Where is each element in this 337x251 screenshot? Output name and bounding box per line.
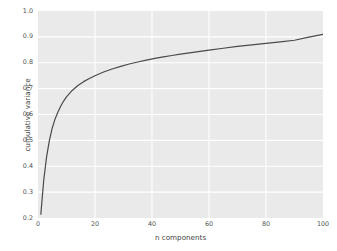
x-tick-label: 20	[80, 221, 110, 227]
x-tick-label: 60	[194, 221, 224, 227]
x-tick-label: 0	[23, 221, 53, 227]
figure-canvas: 0.20.30.40.50.60.70.80.91.0 020406080100…	[0, 0, 337, 251]
x-axis-label: n components	[38, 234, 323, 241]
y-axis-label: cumulative variance	[24, 45, 31, 185]
x-tick-label: 80	[251, 221, 281, 227]
y-axis-label-holder: cumulative variance	[8, 11, 18, 218]
x-tick-label: 100	[308, 221, 337, 227]
cumulative-variance-line	[38, 11, 323, 218]
x-tick-label: 40	[137, 221, 167, 227]
plot-area	[38, 11, 323, 218]
